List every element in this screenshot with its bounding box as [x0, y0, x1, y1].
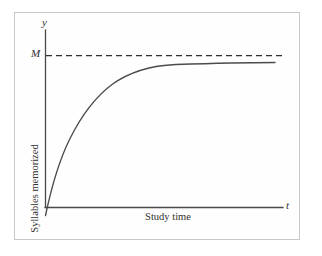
figure-root: y t M Syllables memorized Study time	[0, 0, 322, 256]
y-axis-variable-label: y	[42, 17, 47, 28]
y-axis-title: Syllables memorized	[29, 114, 40, 256]
asymptote-value-label: M	[31, 48, 40, 59]
t-axis-variable-label: t	[286, 200, 289, 211]
x-axis-title: Study time	[98, 211, 238, 222]
learning-curve-path	[46, 63, 276, 216]
